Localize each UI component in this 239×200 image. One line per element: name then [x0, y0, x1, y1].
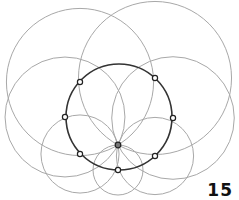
- point-marker: [170, 115, 175, 120]
- point-marker: [77, 151, 82, 156]
- point-marker: [115, 167, 120, 172]
- point-marker: [77, 79, 82, 84]
- circle-construction-diagram: [0, 0, 239, 200]
- point-marker: [62, 114, 67, 119]
- page-number: 15: [207, 180, 233, 200]
- point-marker: [152, 153, 157, 158]
- point-marker: [152, 75, 157, 80]
- center-point: [115, 142, 121, 148]
